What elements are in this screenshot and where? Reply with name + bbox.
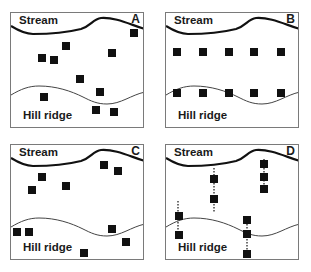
sample-plot bbox=[260, 160, 268, 168]
sample-plot bbox=[175, 231, 183, 239]
sample-plot bbox=[25, 228, 33, 236]
sample-plot bbox=[173, 48, 181, 56]
panel-letter: D bbox=[286, 145, 295, 158]
panel-letter: B bbox=[286, 13, 295, 26]
sample-plot bbox=[38, 173, 46, 181]
sample-plot bbox=[260, 173, 268, 181]
stream-label: Stream bbox=[174, 146, 213, 159]
sample-plot bbox=[62, 42, 70, 50]
sample-plot bbox=[210, 175, 218, 183]
sample-plots bbox=[38, 29, 138, 116]
sample-plot bbox=[100, 161, 108, 169]
sample-plot bbox=[122, 238, 130, 246]
panel-letter: C bbox=[131, 145, 140, 158]
sample-plot bbox=[76, 75, 84, 83]
sample-plot bbox=[243, 230, 251, 238]
sample-plot bbox=[250, 48, 258, 56]
sample-plot bbox=[114, 167, 122, 175]
sample-plot bbox=[175, 212, 183, 220]
panel-b: Stream Hill ridge B bbox=[165, 12, 299, 128]
sample-plot bbox=[130, 29, 138, 37]
sample-plot bbox=[277, 89, 285, 97]
sample-plot bbox=[243, 216, 251, 224]
sample-plot bbox=[108, 225, 116, 233]
sample-plot bbox=[199, 48, 207, 56]
sample-plot bbox=[250, 89, 258, 97]
hill-ridge-label: Hill ridge bbox=[178, 241, 227, 254]
sample-plot bbox=[62, 182, 70, 190]
sample-plot bbox=[110, 108, 118, 116]
sample-plot bbox=[40, 93, 48, 101]
sample-plots bbox=[173, 48, 285, 97]
hill-ridge-label: Hill ridge bbox=[23, 241, 72, 254]
sample-plot bbox=[96, 88, 104, 96]
transect-lines bbox=[178, 159, 264, 253]
sample-plot bbox=[13, 228, 21, 236]
sample-plot bbox=[173, 89, 181, 97]
sample-plot bbox=[210, 195, 218, 203]
panel-d: Stream Hill ridge D bbox=[165, 144, 299, 260]
sample-plot bbox=[50, 56, 58, 64]
hill-ridge-line bbox=[166, 218, 299, 236]
sample-plot bbox=[225, 89, 233, 97]
hill-ridge-label: Hill ridge bbox=[178, 109, 227, 122]
sample-plot bbox=[225, 48, 233, 56]
sample-plot bbox=[243, 250, 251, 258]
panel-a: Stream Hill ridge A bbox=[10, 12, 144, 128]
sample-plot bbox=[199, 89, 207, 97]
panel-letter: A bbox=[131, 13, 140, 26]
sample-plot bbox=[277, 48, 285, 56]
stream-label: Stream bbox=[19, 14, 58, 27]
stream-label: Stream bbox=[174, 14, 213, 27]
sample-plot bbox=[260, 185, 268, 193]
sample-plot bbox=[80, 249, 88, 257]
hill-ridge-label: Hill ridge bbox=[23, 109, 72, 122]
panel-c: Stream Hill ridge C bbox=[10, 144, 144, 260]
sample-plot bbox=[92, 106, 100, 114]
sample-plot bbox=[28, 186, 36, 194]
hill-ridge-line bbox=[11, 86, 144, 104]
sample-plot bbox=[108, 49, 116, 57]
sample-plot bbox=[38, 54, 46, 62]
stream-label: Stream bbox=[19, 146, 58, 159]
